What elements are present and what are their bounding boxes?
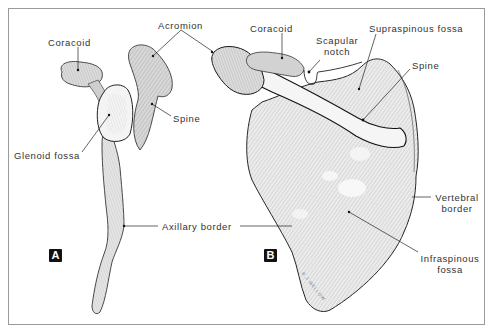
label-infraspinous-fossa: Infraspinous fossa bbox=[418, 253, 482, 275]
label-infraspinous-fossa-line1: Infraspinous bbox=[418, 253, 482, 264]
label-scapular-notch-line1: Scapular bbox=[316, 35, 358, 46]
label-coracoid-b: Coracoid bbox=[250, 23, 293, 34]
label-supraspinous-fossa: Supraspinous fossa bbox=[369, 23, 463, 34]
label-spine-b: Spine bbox=[412, 60, 439, 71]
panel-b-badge: B bbox=[264, 249, 277, 262]
scapula-posterior-view bbox=[212, 47, 418, 312]
label-vertebral-border: Vertebral border bbox=[431, 192, 483, 214]
label-coracoid-a: Coracoid bbox=[48, 37, 91, 48]
label-acromion: Acromion bbox=[158, 20, 203, 31]
label-spine-a: Spine bbox=[173, 113, 200, 124]
scapula-lateral-view bbox=[61, 45, 172, 314]
label-infraspinous-fossa-line2: fossa bbox=[418, 264, 482, 275]
scapula-illustration bbox=[0, 0, 496, 334]
panel-a-badge: A bbox=[49, 249, 62, 262]
label-scapular-notch: Scapular notch bbox=[316, 35, 358, 57]
label-glenoid-fossa: Glenoid fossa bbox=[14, 150, 80, 161]
label-vertebral-border-line1: Vertebral bbox=[431, 192, 483, 203]
label-vertebral-border-line2: border bbox=[431, 203, 483, 214]
label-scapular-notch-line2: notch bbox=[316, 46, 358, 57]
label-axillary-border: Axillary border bbox=[162, 221, 232, 232]
